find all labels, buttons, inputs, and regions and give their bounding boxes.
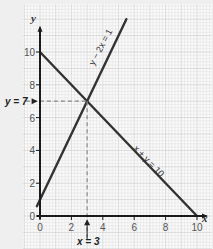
y-tick-label: 4	[29, 145, 35, 156]
x-marker-label: x = 3	[76, 236, 100, 247]
x-axis-label: x	[201, 212, 208, 224]
y-tick-label: 2	[29, 178, 35, 189]
y-axis-label: y	[29, 12, 36, 24]
y-marker-label: y = 7	[4, 96, 28, 107]
y-tick-label: 6	[29, 113, 35, 124]
graph-paper	[23, 4, 212, 249]
x-tick-label: 0	[37, 222, 43, 233]
x-tick-label: 4	[100, 222, 106, 233]
y-tick-label: 10	[24, 47, 36, 58]
x-tick-label: 2	[69, 222, 75, 233]
chart: 02468100246810 x y y = 7 x = 3 y − 2x = …	[0, 0, 213, 249]
x-tick-label: 6	[131, 222, 137, 233]
y-tick-label: 0	[29, 211, 35, 222]
x-tick-label: 8	[163, 222, 169, 233]
y-tick-label: 8	[29, 80, 35, 91]
